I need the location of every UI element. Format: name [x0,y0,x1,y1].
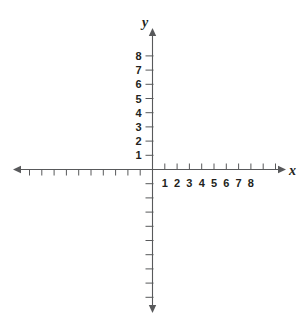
x-axis-tick-label: 2 [174,177,180,189]
y-axis-tick-labels: 12345678 [135,50,142,161]
y-axis-tick-label: 5 [135,93,141,105]
y-axis-tick-label: 7 [135,64,141,76]
y-axis-tick-label: 2 [135,135,141,147]
x-axis-tick-label: 4 [199,177,206,189]
x-axis-right-arrow-icon [278,166,286,173]
y-axis-tick-label: 6 [135,78,141,90]
y-axis-up-arrow-icon [149,28,156,36]
y-axis-tick-label: 8 [135,50,141,62]
x-axis-left-arrow-icon [13,166,21,173]
y-axis-down-arrow-icon [149,305,156,313]
x-axis-tick-label: 6 [223,177,229,189]
y-axis-tick-label: 3 [135,121,141,133]
x-axis-tick-label: 5 [211,177,217,189]
x-axis-label: x [288,163,296,178]
x-axis-tick-label: 1 [162,177,168,189]
y-axis-tick-label: 4 [135,107,142,119]
y-axis-tick-label: 1 [135,149,141,161]
x-axis-tick-labels: 12345678 [162,177,254,189]
x-axis-tick-label: 8 [248,177,254,189]
y-axis-label: y [140,15,149,30]
coordinate-plane: 12345678 12345678 x y [0,0,307,323]
x-axis-tick-label: 3 [186,177,192,189]
x-axis-tick-label: 7 [236,177,242,189]
